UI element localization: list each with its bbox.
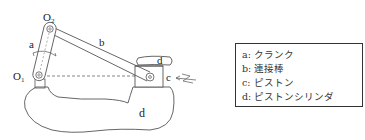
legend-label: ピストン [254,77,294,88]
legend-item-crank: a:クランク [242,48,362,62]
legend-box: a:クランク b:連接棒 c:ピストン d:ピストンシリンダ [235,43,363,107]
label-cylinder-top: d [157,54,163,66]
slider-crank-diagram: O2 O1 a b c d d [0,0,235,140]
label-piston: c [166,71,171,83]
cylinder-body-shape [24,87,174,132]
label-rod: b [99,36,105,48]
label-o2: O2 [43,11,55,25]
legend-label: 連接棒 [254,63,284,74]
legend-item-rod: b:連接棒 [242,62,362,76]
legend-item-cylinder: d:ピストンシリンダ [242,90,362,104]
legend-key: d: [242,91,251,102]
legend-key: c: [242,77,251,88]
legend-label: ピストンシリンダ [254,91,334,102]
legend-key: b: [242,63,251,74]
reciprocating-arrow-icon [176,74,196,83]
legend-key: a: [242,49,251,60]
label-crank: a [29,38,34,50]
label-o1: O1 [13,70,25,84]
legend-item-piston: c:ピストン [242,76,362,90]
cylinder-top-cap [137,56,173,65]
legend-label: クランク [254,49,294,60]
label-cylinder-body: d [139,106,145,120]
